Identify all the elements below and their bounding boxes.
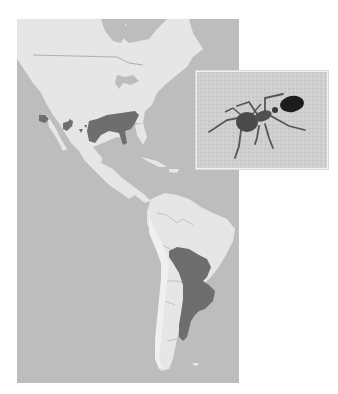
ant-head	[236, 112, 258, 132]
ant-petiole	[272, 107, 278, 113]
ant-illustration	[197, 72, 327, 168]
ant-photo-inset: Photo inset of an ant	[196, 71, 328, 169]
